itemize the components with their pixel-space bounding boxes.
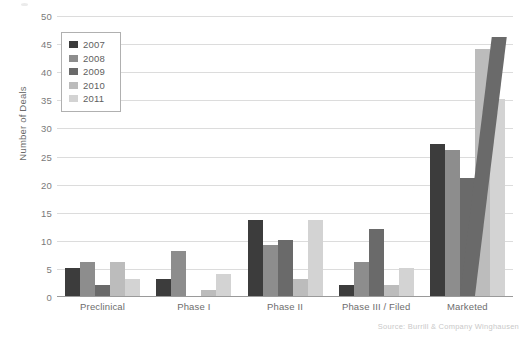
bar [278, 240, 293, 296]
bar [339, 285, 354, 296]
bar [125, 279, 140, 296]
source-note: Source: Burrill & Company Winghausen [378, 322, 519, 331]
y-axis-tick-label: 10 [22, 235, 52, 246]
legend-swatch [69, 55, 78, 62]
y-axis-tick-label: 35 [22, 95, 52, 106]
y-axis-tick-label: 25 [22, 151, 52, 162]
legend-label: 2008 [83, 53, 105, 64]
bar [445, 150, 460, 296]
bar [216, 274, 231, 296]
legend-label: 2009 [83, 66, 105, 77]
legend-swatch [69, 82, 78, 89]
legend-label: 2007 [83, 39, 105, 50]
y-axis-tick-label: 15 [22, 207, 52, 218]
y-axis-tick-label: 50 [22, 11, 52, 22]
scan-artifact-speck [21, 3, 28, 6]
x-axis-tick-label: Marketed [397, 301, 523, 312]
bar [171, 251, 186, 296]
bar-group [248, 15, 323, 296]
legend-swatch [69, 41, 78, 48]
legend: 20072008200920102011 [61, 32, 121, 112]
x-axis-line [57, 296, 513, 297]
bar [293, 279, 308, 296]
y-axis-tick-label: 5 [22, 263, 52, 274]
bar [384, 285, 399, 296]
y-axis-ticks: 50454035302520151050 [14, 16, 52, 297]
bar-group [430, 15, 505, 296]
legend-item: 2009 [69, 65, 114, 79]
legend-swatch [69, 95, 78, 102]
bar [354, 262, 369, 296]
legend-item: 2008 [69, 52, 114, 66]
bar [248, 220, 263, 296]
y-axis-tick-label: 45 [22, 39, 52, 50]
bar [110, 262, 125, 296]
bar [263, 245, 278, 296]
bar [308, 220, 323, 296]
legend-item: 2007 [69, 38, 114, 52]
y-axis-tick-label: 20 [22, 179, 52, 190]
legend-item: 2010 [69, 79, 114, 93]
bar [430, 144, 445, 296]
bar [80, 262, 95, 296]
bar-group [339, 15, 414, 296]
legend-label: 2010 [83, 80, 105, 91]
bar [369, 229, 384, 296]
bar [201, 290, 216, 296]
bar [399, 268, 414, 296]
plot-area: PreclinicalPhase IPhase IIPhase III / Fi… [57, 16, 513, 297]
bar-group [156, 15, 231, 296]
bar [65, 268, 80, 296]
legend-swatch [69, 68, 78, 75]
legend-label: 2011 [83, 93, 104, 104]
bar [156, 279, 171, 296]
bar [95, 285, 110, 296]
y-axis-tick-label: 30 [22, 123, 52, 134]
y-axis-tick-label: 40 [22, 67, 52, 78]
legend-item: 2011 [69, 92, 114, 106]
bar-chart: Number of Deals 50454035302520151050 Pre… [0, 0, 523, 339]
